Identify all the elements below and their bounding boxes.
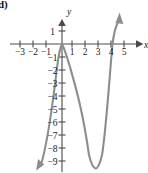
x-axis-label: x — [143, 40, 148, 50]
y-tick-label-1: 1 — [50, 27, 55, 37]
y-tick-label--2: −2 — [47, 66, 57, 76]
x-tick-label-4: 4 — [109, 47, 114, 57]
x-tick-label--2: −2 — [28, 47, 38, 57]
coordinate-plane-graph: −3 −2 −1 1 2 3 4 5 1 −1 −2 −3 −4 −5 −6 −… — [0, 0, 148, 173]
x-tick-label-5: 5 — [122, 47, 127, 57]
part-label: d) — [0, 0, 7, 10]
x-tick-label-1: 1 — [70, 47, 75, 57]
y-axis-arrowhead — [58, 19, 66, 26]
x-tick-label-3: 3 — [96, 47, 101, 57]
y-tick-label--3: −3 — [47, 79, 57, 89]
y-tick-label--4: −4 — [47, 92, 57, 102]
x-tick-label-2: 2 — [83, 47, 88, 57]
x-axis-arrowhead — [136, 40, 144, 48]
y-tick-label--7: −7 — [47, 131, 57, 141]
y-tick-label--9: −9 — [47, 157, 57, 167]
y-axis-label: y — [66, 7, 72, 17]
y-tick-label--5: −5 — [47, 105, 57, 115]
y-tick-label--6: −6 — [47, 118, 57, 128]
parabola-right-arrowhead — [116, 13, 124, 25]
figure-container: d) — [0, 0, 148, 173]
y-tick-label--8: −8 — [47, 144, 57, 154]
x-tick-label--3: −3 — [15, 47, 25, 57]
y-tick-label--1: −1 — [47, 53, 57, 63]
x-tick-labels: −3 −2 −1 1 2 3 4 5 — [15, 47, 127, 57]
